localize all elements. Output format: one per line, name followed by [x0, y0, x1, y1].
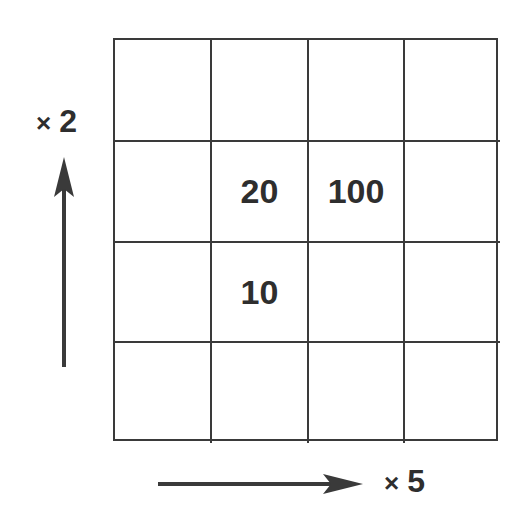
vertical-multiplier-label: ×2 — [36, 103, 77, 140]
up-arrow-icon — [50, 155, 80, 370]
grid-cell: 100 — [309, 142, 405, 243]
grid-cell — [405, 343, 500, 443]
number-grid: 2010010 — [113, 38, 498, 441]
times-symbol: × — [384, 468, 399, 498]
grid-cell — [115, 40, 212, 142]
multiplier-value: 5 — [407, 463, 425, 499]
grid-cell — [405, 142, 500, 243]
grid-cell — [309, 243, 405, 343]
grid-cell — [405, 243, 500, 343]
grid-cell: 10 — [212, 243, 309, 343]
grid-cell — [309, 343, 405, 443]
grid-cell — [115, 243, 212, 343]
grid-cell — [115, 343, 212, 443]
grid-cell — [115, 142, 212, 243]
grid-cell — [212, 343, 309, 443]
grid-cell — [212, 40, 309, 142]
grid-cell — [309, 40, 405, 142]
horizontal-multiplier-label: ×5 — [384, 463, 425, 500]
right-arrow-icon — [158, 470, 368, 500]
grid-cell: 20 — [212, 142, 309, 243]
times-symbol: × — [36, 108, 51, 138]
multiplier-value: 2 — [59, 103, 77, 139]
grid-cell — [405, 40, 500, 142]
